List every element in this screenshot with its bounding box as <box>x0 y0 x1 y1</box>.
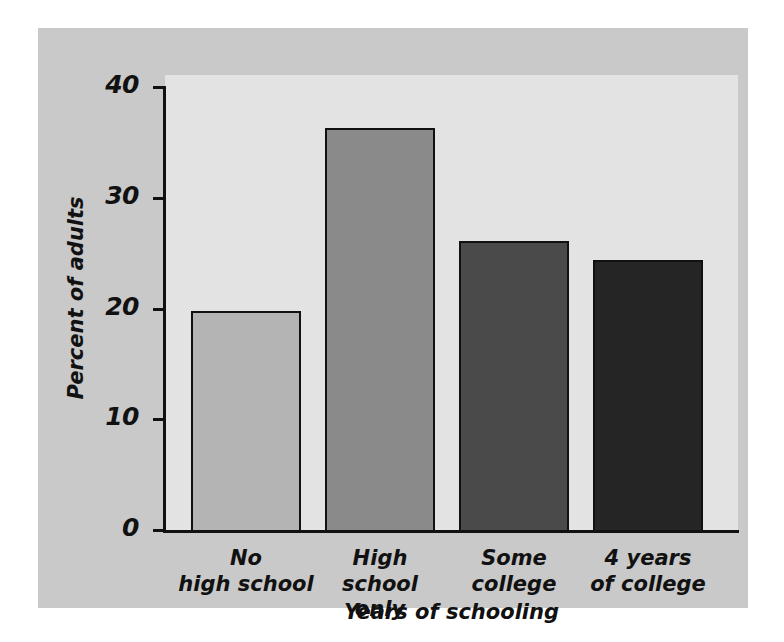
y-tick-label: 10 <box>87 402 139 431</box>
bar <box>593 260 703 532</box>
y-tick-label: 40 <box>87 70 139 99</box>
x-category-label-line: college <box>445 572 583 598</box>
y-tick-mark <box>153 529 164 532</box>
y-axis-title: Percent of adults <box>64 168 88 428</box>
x-axis-title: Years of schooling <box>165 600 738 624</box>
y-tick-mark <box>153 308 164 311</box>
x-category-label-line: No <box>177 546 315 572</box>
bar <box>325 128 435 532</box>
x-category-label: Somecollege <box>445 546 583 597</box>
y-tick-mark <box>153 418 164 421</box>
x-category-label-line: high school <box>177 572 315 598</box>
bar <box>459 241 569 532</box>
x-category-label-line: Some <box>445 546 583 572</box>
bar <box>191 311 301 532</box>
x-category-label: Nohigh school <box>177 546 315 597</box>
x-category-label: 4 yearsof college <box>579 546 717 597</box>
figure-panel: 010203040 Nohigh schoolHigh schoolonlySo… <box>38 28 748 608</box>
y-tick-mark <box>153 197 164 200</box>
y-tick-label: 20 <box>87 292 139 321</box>
chart-figure: 010203040 Nohigh schoolHigh schoolonlySo… <box>0 0 784 642</box>
y-tick-mark <box>153 86 164 89</box>
y-tick-label: 30 <box>87 181 139 210</box>
y-tick-label: 0 <box>87 513 139 542</box>
x-category-label-line: of college <box>579 572 717 598</box>
x-category-label-line: 4 years <box>579 546 717 572</box>
x-category-label-line: High school <box>311 546 449 597</box>
